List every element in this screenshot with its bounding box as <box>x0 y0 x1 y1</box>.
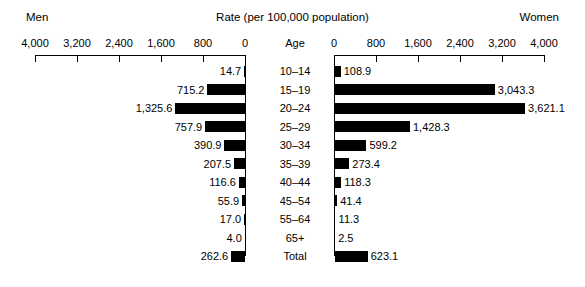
right-axis-tick-mark <box>418 55 419 62</box>
bar-men <box>239 177 245 188</box>
value-label-women: 118.3 <box>344 175 371 189</box>
age-group-label: 25–29 <box>262 120 328 134</box>
bar-women <box>335 158 349 169</box>
age-group-label: 45–54 <box>262 194 328 208</box>
chart-row: 715.215–193,043.3 <box>0 81 585 100</box>
age-group-label: 15–19 <box>262 83 328 97</box>
right-axis-tick-mark <box>376 55 377 62</box>
right-axis-tick-labels: 08001,6002,4003,2004,000 <box>0 37 585 50</box>
women-panel-label: Women <box>520 11 559 24</box>
right-axis-line <box>334 55 544 56</box>
bar-women <box>335 121 410 132</box>
value-label-women: 2.5 <box>338 231 353 245</box>
chart-row: 17.055–6411.3 <box>0 210 585 229</box>
value-label-men: 715.2 <box>177 83 205 97</box>
chart-row: 757.925–291,428.3 <box>0 118 585 137</box>
chart-plot-area: 14.710–14108.9715.215–193,043.31,325.620… <box>0 62 585 267</box>
bar-women <box>335 140 366 151</box>
age-group-label: 65+ <box>262 231 328 245</box>
value-label-women: 41.4 <box>340 194 361 208</box>
bar-women <box>335 103 525 114</box>
age-group-label: 30–34 <box>262 138 328 152</box>
value-label-men: 207.5 <box>204 157 232 171</box>
bar-men <box>175 103 245 114</box>
value-label-women: 599.2 <box>369 138 397 152</box>
bar-women <box>335 66 341 77</box>
value-label-men: 390.9 <box>194 138 222 152</box>
right-axis-tick-label: 0 <box>331 37 337 50</box>
chart-row: 4.065+2.5 <box>0 229 585 248</box>
right-axis-tick-mark <box>502 55 503 62</box>
right-axis-tick-label: 4,000 <box>530 37 558 50</box>
value-label-men: 757.9 <box>175 120 203 134</box>
bar-men <box>231 251 245 262</box>
left-axis-tick-mark <box>161 55 162 62</box>
value-label-men: 262.6 <box>201 249 229 263</box>
chart-row: 55.945–5441.4 <box>0 192 585 211</box>
bar-men <box>224 140 245 151</box>
chart-row: 1,325.620–243,621.1 <box>0 99 585 118</box>
left-axis-rule <box>35 55 245 62</box>
bar-women <box>335 251 368 262</box>
value-label-men: 14.7 <box>220 64 241 78</box>
right-axis-tick-label: 800 <box>367 37 385 50</box>
left-axis-line <box>35 55 245 56</box>
bar-men <box>205 121 245 132</box>
left-axis-tick-mark <box>77 55 78 62</box>
value-label-women: 623.1 <box>371 249 399 263</box>
value-label-women: 3,621.1 <box>528 101 565 115</box>
chart-row: 116.640–44118.3 <box>0 173 585 192</box>
value-label-men: 1,325.6 <box>136 101 173 115</box>
left-axis-tick-mark <box>203 55 204 62</box>
age-group-label: Total <box>262 249 328 263</box>
chart-row: 14.710–14108.9 <box>0 62 585 81</box>
left-axis-tick-mark <box>119 55 120 62</box>
right-axis-tick-label: 1,600 <box>404 37 432 50</box>
age-group-label: 35–39 <box>262 157 328 171</box>
right-axis-tick-mark <box>460 55 461 62</box>
bar-men <box>244 66 245 77</box>
right-axis-tick-mark <box>544 55 545 62</box>
value-label-women: 11.3 <box>339 212 360 226</box>
age-group-label: 55–64 <box>262 212 328 226</box>
left-axis-tick-mark <box>35 55 36 62</box>
bar-men <box>244 214 245 225</box>
chart-row: 262.6Total623.1 <box>0 247 585 266</box>
bar-women <box>335 177 341 188</box>
age-group-label: 40–44 <box>262 175 328 189</box>
left-axis-tick-mark <box>245 55 246 62</box>
value-label-men: 17.0 <box>220 212 241 226</box>
bar-men <box>234 158 245 169</box>
right-axis-tick-mark <box>334 55 335 62</box>
value-label-women: 3,043.3 <box>498 83 535 97</box>
age-group-label: 10–14 <box>262 64 328 78</box>
value-label-women: 1,428.3 <box>413 120 450 134</box>
bar-women <box>335 84 495 95</box>
value-label-men: 116.6 <box>209 175 236 189</box>
right-axis-rule <box>334 55 544 62</box>
age-group-label: 20–24 <box>262 101 328 115</box>
right-axis-tick-label: 3,200 <box>488 37 516 50</box>
chart-row: 390.930–34599.2 <box>0 136 585 155</box>
chart-title: Rate (per 100,000 population) <box>0 11 585 24</box>
value-label-women: 273.4 <box>352 157 380 171</box>
bar-men <box>242 195 245 206</box>
bar-women <box>335 195 337 206</box>
bar-men <box>207 84 245 95</box>
value-label-men: 4.0 <box>227 231 242 245</box>
population-rate-pyramid-chart: Men Rate (per 100,000 population) Women … <box>0 0 585 287</box>
right-axis-tick-label: 2,400 <box>446 37 474 50</box>
value-label-women: 108.9 <box>344 64 372 78</box>
value-label-men: 55.9 <box>218 194 239 208</box>
chart-row: 207.535–39273.4 <box>0 155 585 174</box>
